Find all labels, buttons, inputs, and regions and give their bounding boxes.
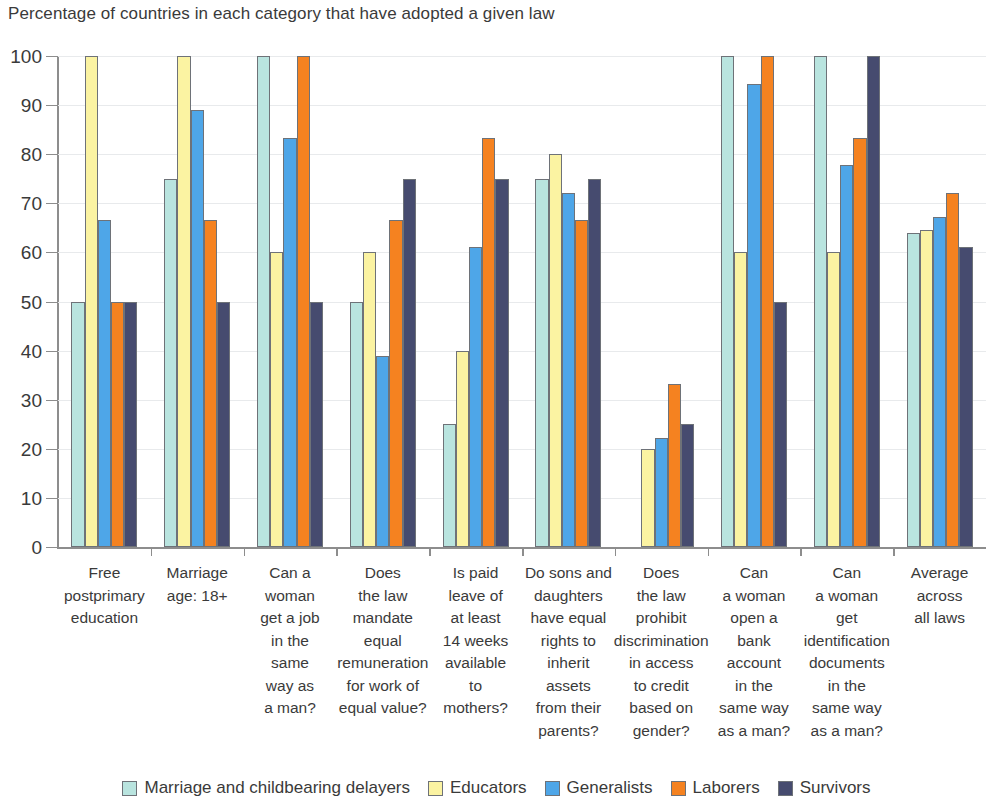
x-axis-group-separator: [800, 547, 802, 556]
x-axis-category-label: Averageacrossall laws: [885, 562, 993, 630]
y-axis-tick-label: 90: [0, 96, 42, 115]
bar: [549, 154, 562, 547]
category-label-line: all laws: [885, 607, 993, 630]
bar: [71, 302, 84, 548]
y-axis-tick-mark: [46, 449, 57, 450]
bar: [310, 302, 323, 548]
bar: [482, 138, 495, 547]
y-axis-tick-label: 0: [0, 538, 42, 557]
bar: [933, 217, 946, 547]
y-axis-tick-label: 30: [0, 390, 42, 409]
bar: [177, 56, 190, 547]
chart-title: Percentage of countries in each category…: [8, 4, 555, 24]
bar: [350, 302, 363, 548]
bar: [840, 165, 853, 547]
y-axis-tick-mark: [46, 302, 57, 303]
bar: [191, 110, 204, 547]
category-label-line: documents: [792, 652, 901, 675]
bar: [668, 384, 681, 548]
bar: [204, 220, 217, 547]
bar: [907, 233, 920, 547]
bar: [124, 302, 137, 548]
bar: [257, 56, 270, 547]
bar: [495, 179, 508, 547]
category-label-line: same way: [792, 697, 901, 720]
y-axis-tick-label: 40: [0, 341, 42, 360]
y-axis-tick-label: 60: [0, 243, 42, 262]
bar: [774, 302, 787, 548]
y-axis-tick-label: 20: [0, 439, 42, 458]
y-axis-tick-mark: [46, 105, 57, 106]
bar-group: [522, 56, 615, 547]
x-axis-group-separator: [244, 547, 246, 556]
legend-color-swatch: [671, 781, 686, 796]
y-axis-labels: 0102030405060708090100: [0, 50, 42, 547]
y-axis-tick-mark: [46, 351, 57, 352]
x-axis-group-separator: [429, 547, 431, 556]
y-axis-tick-mark: [46, 154, 57, 155]
x-axis-group-separator: [893, 547, 895, 556]
legend-label: Survivors: [800, 779, 871, 797]
legend-label: Generalists: [567, 779, 653, 797]
legend-item[interactable]: Laborers: [671, 779, 760, 797]
bar: [562, 193, 575, 548]
bar-group: [429, 56, 522, 547]
bar: [721, 56, 734, 547]
bar: [283, 138, 296, 547]
x-axis-group-separator: [615, 547, 617, 556]
bar: [98, 220, 111, 547]
bar: [403, 179, 416, 547]
y-axis-tick-label: 80: [0, 145, 42, 164]
bar-group: [151, 56, 244, 547]
bar: [363, 252, 376, 547]
y-axis-tick-label: 70: [0, 194, 42, 213]
bar: [535, 179, 548, 547]
bar: [469, 247, 482, 547]
y-axis-tick-mark: [46, 252, 57, 253]
legend-item[interactable]: Generalists: [545, 779, 653, 797]
category-label-line: as a man?: [792, 720, 901, 743]
legend-label: Laborers: [693, 779, 760, 797]
bar: [111, 302, 124, 548]
bar: [217, 302, 230, 548]
y-axis-tick-label: 50: [0, 292, 42, 311]
legend-color-swatch: [428, 781, 443, 796]
legend-item[interactable]: Educators: [428, 779, 527, 797]
bar: [575, 220, 588, 547]
bar-group: [58, 56, 151, 547]
category-label-line: Average: [885, 562, 993, 585]
bar: [443, 424, 456, 547]
legend-item[interactable]: Marriage and childbearing delayers: [122, 779, 410, 797]
legend-color-swatch: [545, 781, 560, 796]
x-axis-category-labels: FreepostprimaryeducationMarriageage: 18+…: [0, 562, 993, 762]
y-axis-tick-mark: [46, 498, 57, 499]
plot-area: [58, 56, 986, 547]
bar: [456, 351, 469, 547]
legend-color-swatch: [122, 781, 137, 796]
legend-color-swatch: [778, 781, 793, 796]
bar-group: [336, 56, 429, 547]
bar: [164, 179, 177, 547]
bar: [853, 138, 866, 547]
bar: [270, 252, 283, 547]
bar: [867, 56, 880, 547]
category-label-line: education: [50, 607, 159, 630]
chart-plot-container: 0102030405060708090100: [0, 50, 993, 560]
x-axis-group-separator: [151, 547, 153, 556]
y-axis-tick-label: 10: [0, 488, 42, 507]
legend-item[interactable]: Survivors: [778, 779, 871, 797]
category-label-line: across: [885, 585, 993, 608]
y-axis-tick-label: 100: [0, 47, 42, 66]
legend-label: Marriage and childbearing delayers: [144, 779, 410, 797]
category-label-line: in the: [792, 675, 901, 698]
y-axis-tick-mark: [46, 547, 57, 548]
bar: [814, 56, 827, 547]
category-label-line: identification: [792, 630, 901, 653]
bar: [946, 193, 959, 548]
bar-group: [708, 56, 801, 547]
bar: [747, 84, 760, 548]
x-axis-group-separator: [522, 547, 524, 556]
bar: [389, 220, 402, 547]
bar: [85, 56, 98, 547]
x-axis-group-separator: [336, 547, 338, 556]
